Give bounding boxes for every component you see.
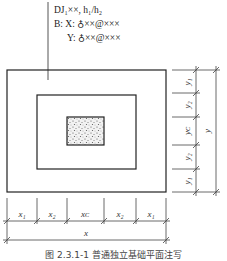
dim-label-x1-right: x₁	[146, 209, 154, 219]
annotation-line-rebar-y: Y: ♁××@×××	[67, 31, 120, 45]
dim-label-xc: xᴄ	[80, 209, 90, 219]
annotation-line-rebar-x: B: X: ♁××@×××	[54, 17, 120, 31]
dim-label-yc: yᴄ	[182, 126, 192, 136]
dim-label-x-total: x	[83, 228, 88, 238]
dim-label-y2-top: y₂	[182, 101, 192, 109]
dim-label-x2-right: x₂	[115, 209, 123, 219]
dim-label-y1-top: y₁	[182, 78, 192, 86]
figure-caption: 图 2.3.1-1 普通独立基础平面注写	[0, 248, 227, 261]
annotation-line-code: DJ₁××, h₁/h₂	[54, 3, 102, 17]
column-section	[67, 117, 104, 145]
right-dimension	[172, 66, 220, 196]
dim-label-x1-left: x₁	[17, 209, 25, 219]
dim-label-y1-bottom: y₁	[182, 177, 192, 185]
dim-label-y-total: y	[202, 129, 212, 134]
dim-label-y2-bottom: y₂	[182, 153, 192, 161]
dim-label-x2-left: x₂	[47, 209, 55, 219]
